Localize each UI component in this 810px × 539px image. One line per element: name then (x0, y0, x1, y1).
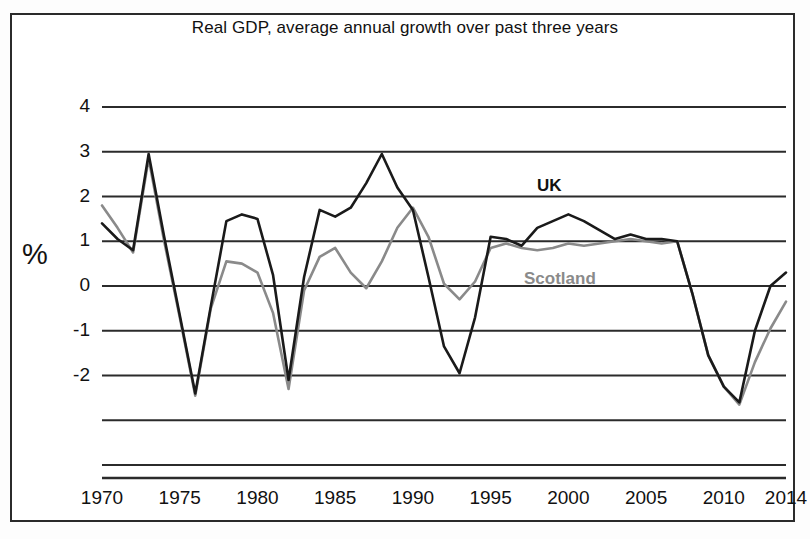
series-label-uk: UK (537, 176, 562, 196)
y-tick-label: 2 (48, 185, 90, 207)
x-tick-label: 1985 (304, 487, 366, 509)
x-tick-label: 1970 (71, 487, 133, 509)
series-group (102, 154, 786, 405)
x-tick-label: 1975 (149, 487, 211, 509)
x-tick-label: 1995 (460, 487, 522, 509)
y-tick-label: 0 (48, 274, 90, 296)
series-label-scotland: Scotland (524, 269, 596, 289)
x-tick-label: 2005 (615, 487, 677, 509)
series-line-uk (102, 154, 786, 402)
figure-container: Real GDP, average annual growth over pas… (0, 0, 810, 539)
y-tick-label: -1 (48, 319, 90, 341)
series-line-scotland (102, 158, 786, 404)
y-tick-label: 4 (48, 95, 90, 117)
plot-area (0, 0, 810, 539)
x-tick-label: 1990 (382, 487, 444, 509)
y-tick-label: -2 (48, 364, 90, 386)
y-tick-label: 3 (48, 140, 90, 162)
x-tick-label: 2000 (537, 487, 599, 509)
x-tick-label: 1980 (226, 487, 288, 509)
x-tick-label: 2014 (755, 487, 810, 509)
y-tick-label: 1 (48, 229, 90, 251)
gridlines-group (102, 107, 786, 465)
x-tick-label: 2010 (693, 487, 755, 509)
